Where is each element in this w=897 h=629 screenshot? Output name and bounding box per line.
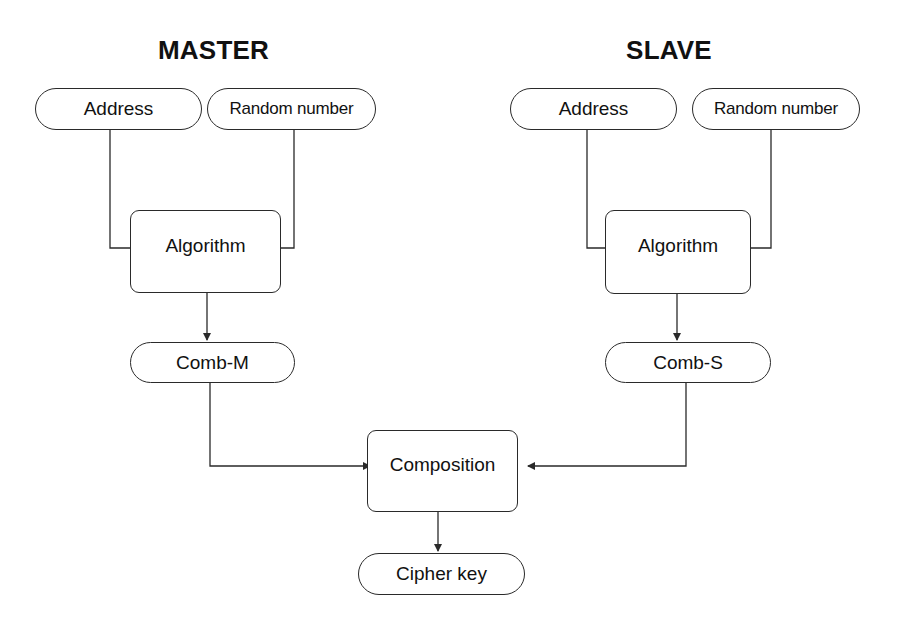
slave-algorithm-node: Algorithm (605, 210, 751, 294)
slave-address-node: Address (510, 88, 677, 130)
master-algorithm-label: Algorithm (165, 235, 245, 257)
master-address-node: Address (35, 88, 202, 130)
slave-address-label: Address (559, 98, 629, 120)
master-random-number-node: Random number (207, 88, 376, 130)
key-generation-diagram: MASTER SLAVE Address Random number Algor… (0, 0, 897, 629)
edge-comb-s-to-composition (528, 383, 686, 466)
master-random-number-label: Random number (229, 99, 353, 119)
slave-comb-label: Comb-S (653, 352, 723, 374)
master-comb-node: Comb-M (130, 342, 295, 383)
slave-heading: SLAVE (594, 35, 744, 66)
slave-algorithm-label: Algorithm (638, 235, 718, 257)
master-comb-label: Comb-M (176, 352, 249, 374)
slave-random-number-label: Random number (714, 99, 838, 119)
master-heading: MASTER (126, 35, 301, 66)
slave-random-number-node: Random number (692, 88, 860, 130)
master-address-label: Address (84, 98, 154, 120)
composition-label: Composition (390, 454, 496, 476)
master-algorithm-node: Algorithm (130, 210, 281, 293)
cipher-key-label: Cipher key (396, 563, 487, 585)
composition-node: Composition (367, 430, 518, 512)
slave-comb-node: Comb-S (605, 342, 771, 383)
cipher-key-node: Cipher key (358, 553, 525, 595)
edge-comb-m-to-composition (210, 383, 370, 466)
